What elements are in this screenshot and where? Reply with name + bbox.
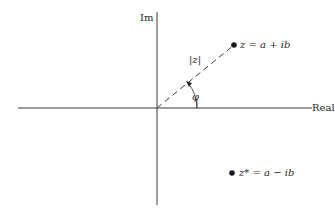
point-z-conjugate-dot: [229, 170, 235, 176]
point-z-conjugate-label: z* = a − ib: [239, 168, 294, 178]
imaginary-axis-label: Im: [140, 13, 153, 23]
real-axis-label: Real: [312, 103, 335, 113]
angle-label: φ: [192, 92, 199, 102]
point-z-dot: [231, 42, 237, 48]
point-z-label: z = a + ib: [240, 40, 290, 50]
magnitude-label: |z|: [189, 55, 201, 65]
